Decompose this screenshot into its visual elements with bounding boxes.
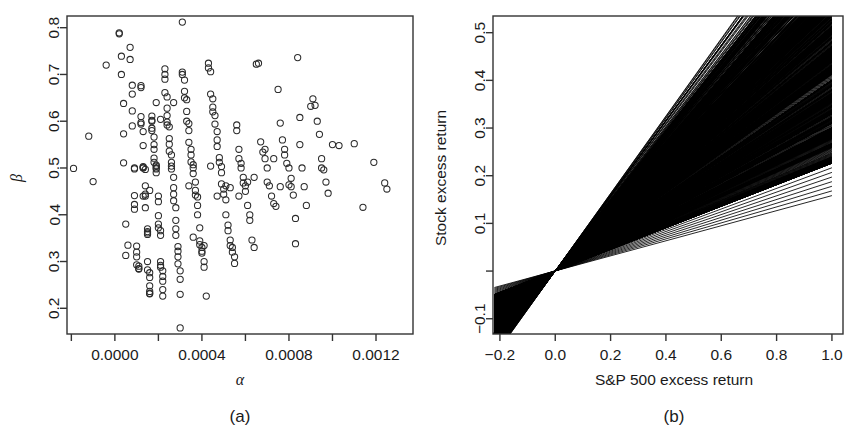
cropped-caption-remnant bbox=[0, 0, 858, 7]
panel-a-scatter: 0.00000.00040.00080.00120.20.30.40.50.60… bbox=[0, 0, 429, 442]
panel-b-subcaption: (b) bbox=[664, 407, 685, 426]
panel-a-labels: β α (a) bbox=[0, 0, 429, 442]
figure-container: 0.00000.00040.00080.00120.20.30.40.50.60… bbox=[0, 0, 858, 442]
panel-a-y-axis-title: β bbox=[8, 174, 26, 183]
panel-a-subcaption: (a) bbox=[230, 407, 251, 426]
panel-b-y-axis-title: Stock excess return bbox=[432, 110, 449, 246]
panel-b-labels: Stock excess return S&P 500 excess retur… bbox=[429, 0, 858, 442]
panel-b-lines: −0.20.00.20.40.60.81.0−0.10.10.20.30.40.… bbox=[429, 0, 858, 442]
panel-b-x-axis-title: S&P 500 excess return bbox=[595, 371, 753, 388]
panel-a-x-axis-title: α bbox=[236, 371, 245, 388]
